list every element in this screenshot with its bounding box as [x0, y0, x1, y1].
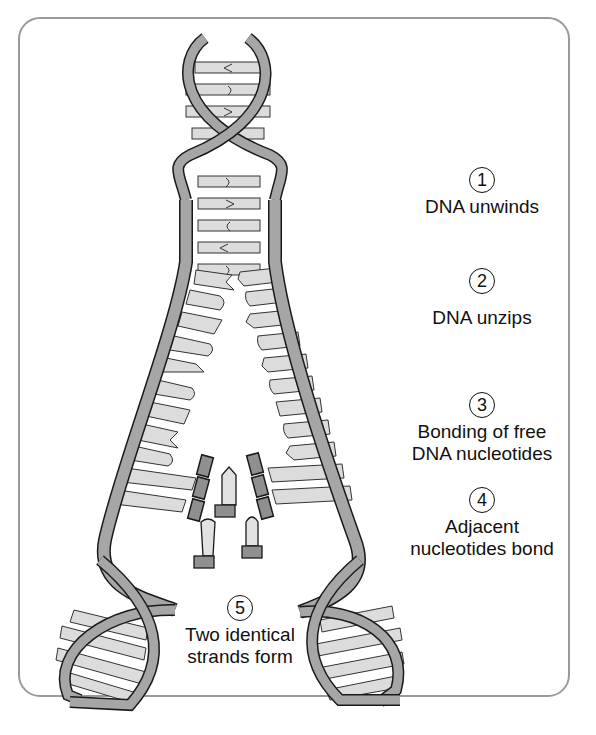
step-1-number-badge: 1 — [469, 167, 495, 193]
step-4-number-badge: 4 — [469, 487, 495, 513]
step-5-label-line-1: Two identical — [150, 624, 330, 646]
step-1-label: DNA unwinds — [392, 196, 572, 218]
step-3-number-badge: 3 — [469, 392, 495, 418]
step-4-label-line-1: Adjacent — [392, 516, 572, 538]
step-2-label: DNA unzips — [392, 307, 572, 329]
step-5: 5 Two identical strands form — [150, 595, 330, 668]
step-5-number-badge: 5 — [227, 595, 253, 621]
step-4: 4 Adjacent nucleotides bond — [392, 487, 572, 560]
step-3-label-line-1: Bonding of free — [392, 421, 572, 443]
step-4-label-line-2: nucleotides bond — [392, 538, 572, 560]
left-strand-backbone — [104, 200, 186, 610]
step-2-number-badge: 2 — [469, 268, 495, 294]
step-3: 3 Bonding of free DNA nucleotides — [392, 392, 572, 465]
step-1: 1 DNA unwinds — [392, 167, 572, 218]
step-2: 2 DNA unzips — [392, 268, 572, 329]
step-3-label-line-2: DNA nucleotides — [392, 443, 572, 465]
step-5-label-line-2: strands form — [150, 646, 330, 668]
